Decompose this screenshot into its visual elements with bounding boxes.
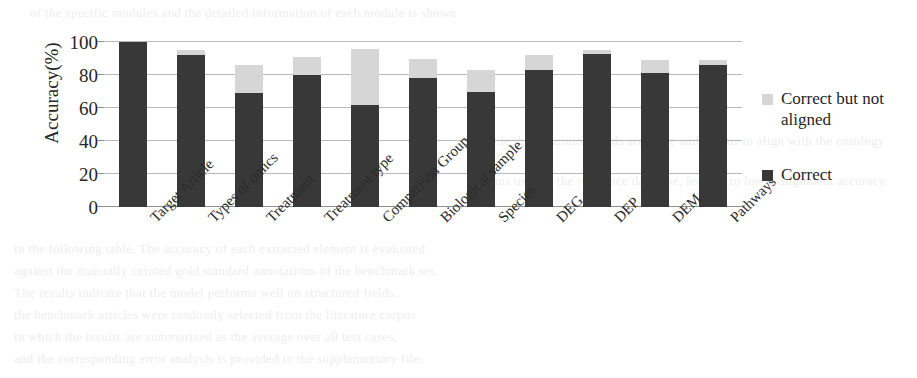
bar-dem[interactable] (641, 60, 669, 207)
bar-segment-not-aligned[interactable] (641, 60, 669, 73)
x-tick-label-deg: DEG (553, 214, 564, 225)
bar-segment-not-aligned[interactable] (351, 49, 379, 105)
y-tick-label-40: 40 (54, 132, 98, 151)
y-tick-mark-20 (97, 173, 104, 174)
chart-legend: Correct but not alignedCorrect (762, 88, 912, 219)
bar-segment-not-aligned[interactable] (409, 59, 437, 79)
y-tick-mark-100 (97, 41, 104, 42)
bar-target-article[interactable] (119, 42, 147, 207)
y-axis-tick-labels: 100806040200 (50, 42, 98, 207)
legend-swatch-not-aligned (762, 94, 773, 105)
bar-segment-correct[interactable] (699, 65, 727, 207)
bar-segment-not-aligned[interactable] (235, 65, 263, 93)
y-tick-mark-0 (97, 206, 104, 207)
legend-item-not-aligned[interactable]: Correct but not aligned (762, 88, 912, 130)
x-tick-label-dep: DEP (611, 214, 622, 225)
x-tick-label-target-article: Target Article (147, 214, 158, 225)
y-tick-label-80: 80 (54, 66, 98, 85)
legend-swatch-correct (762, 170, 773, 181)
bar-segment-correct[interactable] (119, 42, 147, 207)
x-tick-label-comparison-group: Comparison Group (379, 214, 390, 225)
x-tick-label-treatment: Treatment (263, 214, 274, 225)
bar-segment-not-aligned[interactable] (525, 55, 553, 70)
x-tick-label-species: Species (495, 214, 506, 225)
x-tick-label-pathways: Pathways (727, 214, 738, 225)
bar-segment-correct[interactable] (583, 54, 611, 207)
x-axis-tick-labels: Target ArticleTypes of omicsTreatmentTre… (104, 210, 742, 330)
bar-dep[interactable] (583, 50, 611, 207)
y-tick-label-0: 0 (54, 198, 98, 217)
x-tick-label-dem: DEM (669, 214, 680, 225)
x-tick-label-treatment-type: Treatment type (321, 214, 332, 225)
legend-item-correct[interactable]: Correct (762, 164, 912, 185)
y-tick-label-60: 60 (54, 99, 98, 118)
y-tick-mark-80 (97, 74, 104, 75)
legend-label-not-aligned: Correct but not aligned (781, 88, 906, 130)
y-tick-label-20: 20 (54, 165, 98, 184)
y-tick-mark-40 (97, 140, 104, 141)
legend-label-correct: Correct (781, 164, 832, 185)
bar-segment-correct[interactable] (641, 73, 669, 207)
stacked-bar-chart: Accuracy(%) 100806040200 Target ArticleT… (0, 0, 917, 378)
bar-segment-not-aligned[interactable] (467, 70, 495, 91)
y-tick-label-100: 100 (54, 33, 98, 52)
y-tick-mark-60 (97, 107, 104, 108)
bar-pathways[interactable] (699, 60, 727, 207)
gridline-100 (104, 41, 742, 42)
x-tick-label-biological-sample: Biological sample (437, 214, 448, 225)
x-tick-label-types-of-omics: Types of omics (205, 214, 216, 225)
bar-segment-not-aligned[interactable] (293, 57, 321, 75)
